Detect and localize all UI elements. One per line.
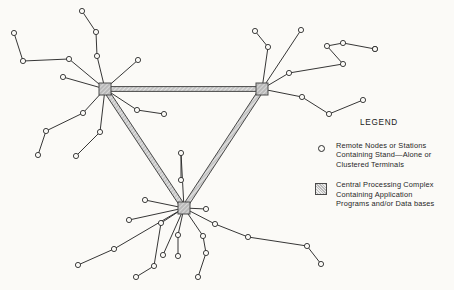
remote-node[interactable] bbox=[135, 57, 140, 62]
remote-node[interactable] bbox=[326, 111, 331, 116]
remote-node[interactable] bbox=[360, 97, 365, 102]
remote-node[interactable] bbox=[298, 27, 303, 32]
remote-node[interactable] bbox=[79, 8, 84, 13]
remote-node[interactable] bbox=[75, 262, 80, 267]
remote-node[interactable] bbox=[97, 129, 102, 134]
remote-node[interactable] bbox=[66, 56, 71, 61]
legend-line: Remote Nodes or Stations bbox=[336, 141, 431, 150]
legend-line: Central Processing Complex bbox=[336, 180, 434, 189]
legend-line: Containing Stand—Alone or bbox=[336, 150, 431, 159]
spoke-link bbox=[215, 224, 248, 237]
remote-node[interactable] bbox=[178, 150, 183, 155]
remote-node[interactable] bbox=[372, 46, 377, 51]
legend-line: Clustered Terminals bbox=[336, 160, 431, 169]
remote-node[interactable] bbox=[318, 261, 323, 266]
spoke-link bbox=[76, 132, 100, 156]
legend-line: Containing Application bbox=[336, 190, 434, 199]
remote-node[interactable] bbox=[340, 40, 345, 45]
trunk-link-left-bottom-band bbox=[103, 88, 186, 210]
legend-entry-central-complex: Central Processing Complex Containing Ap… bbox=[306, 180, 454, 208]
remote-node[interactable] bbox=[286, 70, 291, 75]
remote-node[interactable] bbox=[80, 110, 85, 115]
spoke-link bbox=[343, 43, 375, 49]
remote-node-icon bbox=[318, 145, 325, 152]
remote-node[interactable] bbox=[324, 43, 329, 48]
spoke-link bbox=[307, 246, 321, 264]
trunk-link-right-bottom-band bbox=[182, 88, 264, 210]
remote-node[interactable] bbox=[35, 152, 40, 157]
spoke-link bbox=[289, 64, 343, 73]
central-complex-icon bbox=[315, 183, 327, 195]
spoke-link bbox=[198, 253, 206, 277]
remote-node[interactable] bbox=[252, 28, 257, 33]
remote-node[interactable] bbox=[11, 30, 16, 35]
spoke-link bbox=[129, 208, 184, 220]
remote-node[interactable] bbox=[60, 74, 65, 79]
spoke-link bbox=[329, 100, 363, 114]
legend: LEGEND Remote Nodes or Stations Containi… bbox=[306, 118, 454, 219]
remote-node[interactable] bbox=[175, 232, 180, 237]
remote-node[interactable] bbox=[94, 53, 99, 58]
legend-entry-text: Central Processing Complex Containing Ap… bbox=[336, 180, 434, 208]
trunk-link-right-bottom-edge bbox=[186, 90, 264, 209]
remote-node[interactable] bbox=[134, 107, 139, 112]
remote-node[interactable] bbox=[142, 197, 147, 202]
spoke-link bbox=[255, 31, 268, 47]
remote-node[interactable] bbox=[340, 61, 345, 66]
remote-node[interactable] bbox=[200, 233, 205, 238]
legend-symbol-container bbox=[306, 141, 336, 152]
spoke-link bbox=[262, 30, 301, 89]
remote-node[interactable] bbox=[203, 206, 208, 211]
legend-entry-text: Remote Nodes or Stations Containing Stan… bbox=[336, 141, 431, 169]
spoke-link bbox=[14, 33, 23, 61]
spoke-link bbox=[46, 113, 83, 131]
remote-node[interactable] bbox=[111, 246, 116, 251]
spoke-link bbox=[137, 110, 164, 114]
remote-node[interactable] bbox=[304, 243, 309, 248]
spoke-link bbox=[78, 249, 114, 265]
remote-node[interactable] bbox=[73, 153, 78, 158]
trunk-link-right-bottom-edge bbox=[182, 88, 260, 207]
legend-symbol-container bbox=[306, 180, 336, 195]
remote-node[interactable] bbox=[265, 44, 270, 49]
spoke-link bbox=[82, 11, 96, 32]
spoke-link bbox=[136, 266, 154, 277]
remote-node[interactable] bbox=[126, 217, 131, 222]
remote-node[interactable] bbox=[20, 58, 25, 63]
network-topology-diagram: LEGEND Remote Nodes or Stations Containi… bbox=[0, 0, 454, 290]
spoke-link bbox=[114, 208, 184, 249]
spoke-link bbox=[248, 237, 307, 246]
spoke-link bbox=[38, 131, 46, 155]
remote-node[interactable] bbox=[133, 274, 138, 279]
central-processing-complex-left[interactable] bbox=[99, 83, 111, 95]
legend-entry-remote-node: Remote Nodes or Stations Containing Stan… bbox=[306, 141, 454, 169]
remote-node[interactable] bbox=[178, 177, 183, 182]
remote-node[interactable] bbox=[212, 221, 217, 226]
legend-line: Programs and/or Data bases bbox=[336, 199, 434, 208]
spoke-link bbox=[302, 97, 329, 114]
legend-title: LEGEND bbox=[360, 118, 454, 127]
remote-node[interactable] bbox=[161, 111, 166, 116]
remote-node[interactable] bbox=[93, 29, 98, 34]
remote-node[interactable] bbox=[203, 250, 208, 255]
remote-node[interactable] bbox=[175, 253, 180, 258]
central-processing-complex-right[interactable] bbox=[256, 83, 268, 95]
trunk-link-left-right-band bbox=[105, 87, 262, 92]
trunk-link-left-bottom-edge bbox=[103, 90, 182, 209]
remote-node[interactable] bbox=[43, 128, 48, 133]
remote-node[interactable] bbox=[245, 234, 250, 239]
remote-node[interactable] bbox=[151, 263, 156, 268]
spoke-link bbox=[327, 46, 343, 64]
central-processing-complex-bottom[interactable] bbox=[178, 202, 190, 214]
spoke-link bbox=[154, 223, 161, 266]
remote-node[interactable] bbox=[299, 94, 304, 99]
remote-node[interactable] bbox=[160, 252, 165, 257]
remote-node[interactable] bbox=[158, 220, 163, 225]
remote-node[interactable] bbox=[195, 274, 200, 279]
trunk-link-left-bottom-edge bbox=[107, 88, 186, 207]
spoke-link bbox=[23, 59, 69, 61]
spoke-link bbox=[96, 32, 97, 56]
